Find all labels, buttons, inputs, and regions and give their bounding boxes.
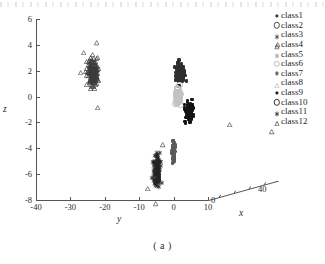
x-tick-label: 40	[258, 185, 267, 194]
triangle-open-icon	[272, 78, 281, 87]
data-point	[173, 141, 176, 144]
y-tick-label: -30	[61, 203, 79, 212]
legend-item[interactable]: class4	[272, 40, 325, 50]
figure-3d-scatter: 6420-2-4-6-8 -40-30-20-10010 040 z y x c…	[0, 0, 325, 264]
z-tick-label: 2	[16, 67, 32, 76]
data-point	[84, 65, 89, 83]
legend-label: class9	[281, 88, 303, 97]
y-axis-label: y	[117, 214, 121, 224]
circle-open-icon	[272, 59, 281, 68]
legend-label: class1	[281, 11, 303, 20]
data-point-outlier	[160, 134, 165, 152]
data-point	[184, 122, 187, 125]
asterisk-icon	[272, 50, 281, 59]
z-tick	[37, 200, 40, 201]
data-point-outlier	[81, 41, 86, 59]
legend-item[interactable]: class12	[272, 117, 325, 127]
data-point-outlier	[227, 113, 232, 131]
y-tick-label: -40	[27, 203, 45, 212]
data-point	[171, 149, 174, 152]
scan-artifact	[0, 2, 325, 7]
legend-label: class12	[281, 117, 308, 126]
square-filled-icon	[272, 11, 281, 20]
z-tick-label: -2	[16, 118, 32, 127]
legend-label: class4	[281, 40, 303, 49]
legend: class1class2class3class4class5class6clas…	[272, 11, 325, 126]
z-tick-label: -6	[16, 170, 32, 179]
z-tick-label: 6	[16, 15, 32, 24]
square-filled-icon	[272, 88, 281, 97]
data-point-outlier	[94, 32, 99, 50]
data-point	[154, 159, 160, 177]
data-point	[90, 54, 95, 72]
data-point	[190, 98, 193, 101]
data-point	[183, 74, 186, 77]
data-point	[185, 79, 188, 82]
y-tick-label: -20	[96, 203, 114, 212]
z-tick-label: -4	[16, 144, 32, 153]
x-axis-depth-line	[207, 181, 279, 201]
data-point	[173, 65, 176, 68]
figure-caption: ( a )	[0, 240, 325, 251]
legend-item[interactable]: class9	[272, 88, 325, 98]
y-tick-label: -10	[130, 203, 148, 212]
data-point	[190, 109, 193, 112]
data-point-outlier	[145, 177, 150, 195]
data-point-outlier	[153, 193, 158, 211]
legend-label: class11	[281, 107, 307, 116]
y-tick-label: 0	[165, 203, 183, 212]
z-tick-label: 4	[16, 41, 32, 50]
data-point-outlier	[78, 61, 83, 79]
y-tick	[208, 197, 209, 200]
data-point-outlier	[95, 96, 100, 114]
x-tick-label: 0	[211, 196, 215, 205]
legend-label: class6	[281, 59, 303, 68]
z-tick-label: 0	[16, 93, 32, 102]
y-axis-line	[36, 200, 208, 201]
scatter-plot-area	[36, 19, 208, 200]
triangle-open-icon	[272, 117, 281, 126]
data-point	[181, 66, 184, 69]
z-axis-label: z	[3, 104, 7, 114]
x-axis-label: x	[239, 208, 243, 218]
